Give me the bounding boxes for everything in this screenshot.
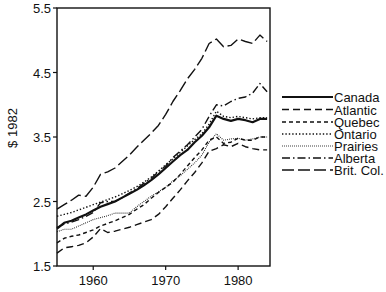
x-axis-ticks: 196019701980 <box>79 266 253 288</box>
series-line-alberta <box>57 84 267 228</box>
y-tick-label: 1.5 <box>33 259 51 274</box>
series-lines <box>57 35 267 253</box>
series-line-ontario <box>57 111 267 216</box>
y-tick-label: 5.5 <box>33 1 51 16</box>
x-tick-label: 1980 <box>224 273 253 288</box>
y-axis-title: $ 1982 <box>5 108 20 148</box>
legend-item: Brit. Col. <box>282 163 384 178</box>
series-line-brit-col <box>57 35 267 209</box>
series-line-atlantic <box>57 143 267 253</box>
series-line-quebec <box>57 137 267 243</box>
legend-label: Brit. Col. <box>334 163 384 178</box>
line-chart: 1.52.53.54.55.5 196019701980 $ 1982 Cana… <box>0 0 386 292</box>
x-tick-label: 1970 <box>151 273 180 288</box>
y-axis-ticks: 1.52.53.54.55.5 <box>33 1 57 274</box>
x-tick-label: 1960 <box>79 273 108 288</box>
legend: CanadaAtlanticQuebecOntarioPrairiesAlber… <box>282 90 384 178</box>
y-tick-label: 3.5 <box>33 130 51 145</box>
series-line-prairies <box>57 134 267 232</box>
plot-frame <box>57 8 270 266</box>
y-tick-label: 4.5 <box>33 66 51 81</box>
series-line-canada <box>57 116 267 229</box>
y-tick-label: 2.5 <box>33 195 51 210</box>
